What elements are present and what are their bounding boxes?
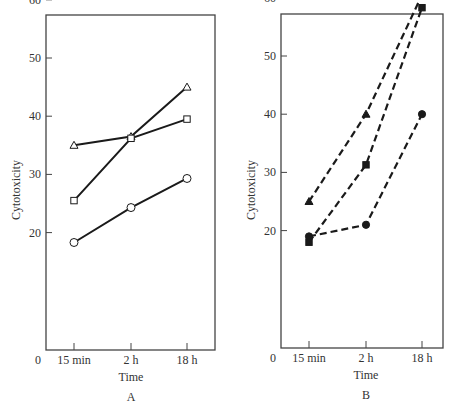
circle-marker-icon: [183, 174, 191, 182]
y-tick-label: 30: [264, 165, 276, 179]
y-tick-label: 50: [29, 51, 41, 65]
y-tick-label: 20: [29, 226, 41, 240]
panel-b-chart: 203040506015 min2 h18 h0TimeCytotoxicity…: [244, 0, 443, 402]
y-tick-label: 20: [264, 224, 276, 238]
x-tick-label: 2 h: [124, 353, 139, 367]
circle-marker-icon: [305, 233, 312, 240]
plot-frame: [281, 14, 443, 348]
origin-label: 0: [270, 351, 276, 365]
square-marker-icon: [419, 4, 425, 10]
square-marker-icon: [363, 162, 369, 168]
x-tick-label: 15 min: [292, 351, 326, 365]
x-tick-label: 18 h: [412, 351, 433, 365]
plot-frame: [46, 15, 215, 350]
y-tick-label: 40: [29, 109, 41, 123]
chart-canvas: 203040506015 min2 h18 h0TimeCytotoxicity…: [0, 0, 462, 412]
y-axis-title: Cytotoxicity: [244, 160, 258, 220]
y-tick-label: 50: [264, 49, 276, 63]
figure: 203040506015 min2 h18 h0TimeCytotoxicity…: [0, 0, 462, 412]
y-tick-label: 40: [264, 107, 276, 121]
triangle-marker-icon: [362, 110, 370, 117]
y-tick-label: 30: [29, 167, 41, 181]
series-line: [309, 114, 422, 236]
circle-marker-icon: [127, 204, 135, 212]
origin-label: 0: [35, 353, 41, 367]
circle-marker-icon: [70, 238, 78, 246]
square-marker-icon: [128, 135, 134, 141]
y-axis-title: Cytotoxicity: [9, 160, 23, 220]
panel-label: B: [362, 388, 370, 402]
triangle-marker-icon: [183, 83, 191, 90]
y-tick-label: 60: [29, 0, 41, 7]
circle-marker-icon: [418, 111, 425, 118]
y-tick-label: 60: [264, 0, 276, 5]
panel-a-chart: 203040506015 min2 h18 h0TimeCytotoxicity…: [9, 0, 215, 404]
series-line: [309, 0, 422, 202]
x-tick-label: 15 min: [57, 353, 91, 367]
x-tick-label: 2 h: [359, 351, 374, 365]
square-marker-icon: [71, 197, 77, 203]
circle-marker-icon: [362, 221, 369, 228]
series-line: [309, 8, 422, 243]
x-tick-label: 18 h: [177, 353, 198, 367]
x-axis-title: Time: [354, 368, 379, 382]
panel-label: A: [127, 390, 136, 404]
square-marker-icon: [184, 116, 190, 122]
x-axis-title: Time: [119, 370, 144, 384]
